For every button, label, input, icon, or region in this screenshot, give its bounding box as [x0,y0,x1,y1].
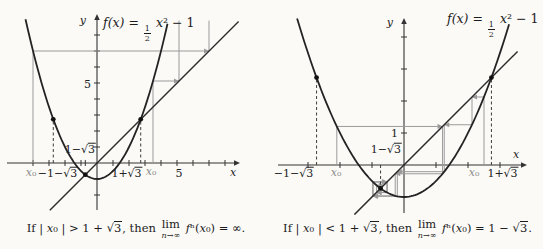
left-caption: If | x₀ | > 1 + √3, then limn→∞ fⁿ(x₀) =… [0,219,272,240]
panel-right: f(x) = 12 x² − 1y11−√3−1−√3x₀x₀1+√3x If … [272,0,543,249]
point-label: y [387,17,393,28]
figure-container: f(x) = 12 x² − 1y51−√3x₀−1−√31+√3x₀5x If… [0,0,543,249]
marked-point [489,75,494,80]
x-axis-arrow-icon [521,162,527,168]
marked-point [138,117,143,122]
right-caption: If | x₀ | < 1 + √3, then limn→∞ fⁿ(x₀) =… [272,219,543,240]
lim-subscript: n→∞ [418,232,437,240]
lim-word: lim [418,219,436,231]
point-label: 5 [84,79,91,90]
point-label: x [230,167,236,178]
y-axis-arrow-icon [94,14,100,20]
lim-stack: limn→∞ [162,219,181,240]
point-label: 5 [176,168,183,179]
point-label: 1−√3 [65,143,96,156]
point-label: −1−√3 [38,167,78,180]
marked-point [314,75,319,80]
point-label: x₀ [331,167,342,178]
y-axis-arrow-icon [401,18,407,24]
point-label: y [80,15,86,26]
point-label: x [513,149,519,160]
lim-word: lim [162,219,180,231]
marked-point [83,172,88,177]
point-label: −1−√3 [274,167,314,180]
point-label: 1−√3 [371,143,402,156]
function-equation-label: f(x) = 12 x² − 1 [447,13,538,39]
panel-left: f(x) = 12 x² − 1y51−√3x₀−1−√31+√3x₀5x If… [0,0,272,249]
point-label: 1+√3 [111,167,142,180]
right-caption-post: fⁿ(x₀) = 1 − √3. [438,221,532,235]
point-label: x₀ [146,166,157,177]
left-caption-pre: If | x₀ | > 1 + √3, then [27,221,160,235]
point-label: 1 [391,128,398,139]
right-caption-pre: If | x₀ | < 1 + √3, then [283,221,416,235]
marked-point [51,117,56,122]
point-label: x₀ [26,167,37,178]
marked-point [378,186,383,191]
function-equation-label: f(x) = 12 x² − 1 [103,17,194,43]
lim-subscript: n→∞ [162,232,181,240]
lim-stack: limn→∞ [418,219,437,240]
point-label: 1+√3 [487,167,518,180]
point-label: x₀ [469,167,480,178]
left-caption-post: fⁿ(x₀) = ∞. [182,221,245,235]
